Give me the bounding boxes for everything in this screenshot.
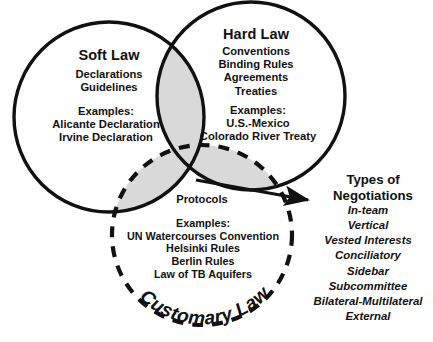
hard-law-examples-label: Examples: (163, 104, 353, 117)
hard-law-term: Conventions (183, 45, 329, 58)
types-heading-line2: Negotiations (313, 188, 433, 204)
hard-law-term: Agreements (183, 71, 329, 84)
soft-law-term: Guidelines (36, 81, 182, 94)
venn-diagram: Customary Law Soft Law Declarations Guid… (0, 0, 433, 342)
customary-law-example: Berlin Rules (103, 255, 303, 268)
hard-law-term: Binding Rules (183, 58, 329, 71)
negotiation-type-item: Subcommittee (303, 279, 433, 294)
negotiation-type-item: External (303, 309, 433, 324)
customary-law-term: Protocols (140, 193, 264, 206)
negotiation-type-item: Conciliatory (303, 248, 433, 263)
customary-law-example: Law of TB Aquifers (103, 268, 303, 281)
negotiation-type-item: Bilateral-Multilateral (303, 294, 433, 309)
types-of-negotiations-heading: Types of Negotiations (313, 172, 433, 204)
types-heading-line1: Types of (313, 172, 433, 188)
negotiation-type-item: Vertical (303, 218, 433, 233)
customary-law-examples: Examples: UN Watercourses Convention Hel… (103, 217, 303, 281)
hard-law-terms: Conventions Binding Rules Agreements Tre… (183, 45, 329, 98)
customary-law-terms: Protocols (140, 193, 264, 206)
hard-law-title: Hard Law (189, 26, 323, 43)
types-of-negotiations-list: In-team Vertical Vested Interests Concil… (303, 203, 433, 324)
soft-law-title: Soft Law (42, 47, 176, 64)
hard-law-term: Treaties (183, 85, 329, 98)
negotiation-type-item: Vested Interests (303, 233, 433, 248)
hard-law-example: U.S.-Mexico (163, 117, 353, 130)
negotiation-type-item: Sidebar (303, 264, 433, 279)
soft-law-terms: Declarations Guidelines (36, 68, 182, 94)
customary-law-example: Helsinki Rules (103, 242, 303, 255)
hard-law-examples: Examples: U.S.-Mexico Colorado River Tre… (163, 104, 353, 144)
customary-law-examples-label: Examples: (103, 217, 303, 230)
hard-law-example: Colorado River Treaty (163, 130, 353, 143)
customary-law-curved-label: Customary Law (136, 282, 274, 329)
negotiation-type-item: In-team (303, 203, 433, 218)
soft-law-term: Declarations (36, 68, 182, 81)
customary-law-example: UN Watercourses Convention (103, 230, 303, 243)
